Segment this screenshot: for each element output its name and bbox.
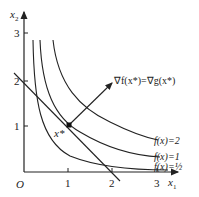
- gradient-label: ∇f(x*)=∇g(x*): [113, 75, 175, 87]
- y-tick-1: 1: [14, 120, 20, 132]
- tangent-point: [67, 123, 72, 128]
- x-tick-1: 1: [65, 177, 71, 189]
- x-tick-2: 2: [109, 177, 115, 189]
- y-axis-label: x2: [9, 8, 19, 23]
- y-tick-2: 2: [14, 75, 20, 87]
- origin-label: O: [16, 178, 24, 190]
- x-tick-3: 3: [154, 177, 160, 189]
- x-axis-label: x1: [167, 176, 177, 191]
- level-curve-f-1: [40, 40, 160, 157]
- gradient-arrow: [69, 83, 112, 125]
- level-label-f-2: f(x)=2: [154, 135, 180, 147]
- level-curve-f-half: [33, 40, 168, 170]
- lagrange-diagram: x2 3 2 1 O 1 2 3 x1 x* ∇f(x*)=∇g(x*) f(x…: [0, 0, 199, 197]
- level-label-f-half: f(x)=½: [154, 161, 183, 173]
- point-label: x*: [53, 127, 65, 139]
- y-tick-3: 3: [14, 27, 20, 39]
